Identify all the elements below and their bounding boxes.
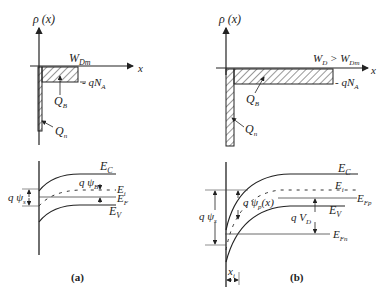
efn-label: EFn [332, 228, 348, 243]
x-axis-label: x [370, 64, 376, 76]
wdm-label: WDm [69, 51, 91, 67]
mos-diagram: ρ (x) x WDm - qNA QB Qn q ψs q ψB EC Ei … [0, 0, 383, 294]
inversion-charge-region [38, 67, 42, 131]
caption-b: (b) [290, 271, 304, 284]
panel-a-band-diagram: q ψs q ψB EC Ei EF EV (a) [8, 159, 129, 284]
qn-label: Qn [55, 124, 68, 140]
depletion-charge-region [234, 69, 333, 84]
xi-label: xi [227, 265, 235, 280]
psi-s-label: q ψs [8, 191, 26, 206]
ec-curve [39, 174, 116, 191]
qb-label: QB [246, 92, 260, 108]
wd-gt-wdm-label: WD > WDm [313, 52, 359, 67]
inversion-charge-region [226, 69, 234, 146]
panel-b-band-diagram: q ψs q ψp(x) q VD EC Ei EFp EV EFn xi (b… [199, 161, 372, 287]
ec-label: EC [99, 159, 113, 175]
x-axis-label: x [137, 62, 143, 74]
ei-label: Ei [334, 179, 344, 194]
psi-p-label: q ψp(x) [243, 196, 274, 211]
rho-axis-label: ρ (x) [218, 12, 241, 26]
qna-label: - qNA [335, 76, 359, 91]
ei-curve [39, 190, 116, 206]
ev-curve [39, 205, 116, 222]
panel-b-charge-plot: ρ (x) x WD > WDm - qNA QB Qn [216, 12, 376, 146]
psi-b-label: q ψB [79, 176, 99, 191]
qb-label: QB [54, 94, 68, 110]
qn-label: Qn [245, 122, 258, 138]
ec-label: EC [337, 161, 351, 177]
rho-axis-label: ρ (x) [32, 12, 55, 26]
vd-label: q VD [291, 211, 311, 226]
ef-label: EF [116, 192, 129, 207]
caption-a: (a) [71, 271, 84, 284]
ev-label: EV [108, 204, 122, 220]
efp-label: EFp [356, 192, 372, 207]
qna-label: - qNA [82, 76, 106, 91]
psi-s-label: q ψs [199, 210, 217, 225]
panel-a-charge-plot: ρ (x) x WDm - qNA QB Qn [30, 12, 143, 145]
